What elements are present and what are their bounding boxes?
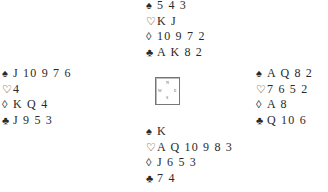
compass-north: N bbox=[166, 81, 169, 85]
north-hand: ♠5 4 3 ♡K J ◊10 9 7 2 ♣A K 8 2 bbox=[146, 0, 206, 60]
west-clubs: ♣J 9 5 3 bbox=[2, 113, 72, 129]
heart-icon: ♡ bbox=[146, 14, 157, 30]
club-icon: ♣ bbox=[2, 113, 13, 129]
north-diamonds: ◊10 9 7 2 bbox=[146, 29, 206, 45]
heart-icon: ♡ bbox=[146, 140, 157, 156]
east-clubs: ♣Q 10 6 bbox=[256, 113, 313, 129]
spade-icon: ♠ bbox=[256, 66, 267, 82]
east-spades: ♠A Q 8 2 bbox=[256, 66, 313, 82]
west-spades: ♠J 10 9 7 6 bbox=[2, 66, 72, 82]
heart-icon: ♡ bbox=[2, 82, 13, 98]
compass-west: W bbox=[158, 89, 162, 93]
diamond-icon: ◊ bbox=[146, 155, 157, 171]
north-spades: ♠5 4 3 bbox=[146, 0, 206, 14]
south-spades: ♠K bbox=[146, 124, 233, 140]
compass-east: E bbox=[174, 89, 176, 93]
club-icon: ♣ bbox=[256, 113, 267, 129]
west-hand: ♠J 10 9 7 6 ♡4 ◊K Q 4 ♣J 9 5 3 bbox=[2, 66, 72, 128]
heart-icon: ♡ bbox=[256, 82, 267, 98]
diamond-icon: ◊ bbox=[146, 29, 157, 45]
north-hearts: ♡K J bbox=[146, 14, 206, 30]
south-clubs: ♣7 4 bbox=[146, 171, 233, 187]
diamond-icon: ◊ bbox=[2, 97, 13, 113]
east-diamonds: ◊A 8 bbox=[256, 97, 313, 113]
west-diamonds: ◊K Q 4 bbox=[2, 97, 72, 113]
compass-box: N W E S bbox=[155, 77, 180, 105]
diamond-icon: ◊ bbox=[256, 97, 267, 113]
south-hand: ♠K ♡A Q 10 9 8 3 ◊J 6 5 3 ♣7 4 bbox=[146, 124, 233, 186]
south-hearts: ♡A Q 10 9 8 3 bbox=[146, 140, 233, 156]
club-icon: ♣ bbox=[146, 45, 157, 61]
west-hearts: ♡4 bbox=[2, 82, 72, 98]
south-diamonds: ◊J 6 5 3 bbox=[146, 155, 233, 171]
spade-icon: ♠ bbox=[146, 0, 157, 14]
north-clubs: ♣A K 8 2 bbox=[146, 45, 206, 61]
spade-icon: ♠ bbox=[146, 124, 157, 140]
compass-south: S bbox=[166, 96, 168, 100]
east-hand: ♠A Q 8 2 ♡7 6 5 2 ◊A 8 ♣Q 10 6 bbox=[256, 66, 313, 128]
club-icon: ♣ bbox=[146, 171, 157, 187]
east-hearts: ♡7 6 5 2 bbox=[256, 82, 313, 98]
spade-icon: ♠ bbox=[2, 66, 13, 82]
